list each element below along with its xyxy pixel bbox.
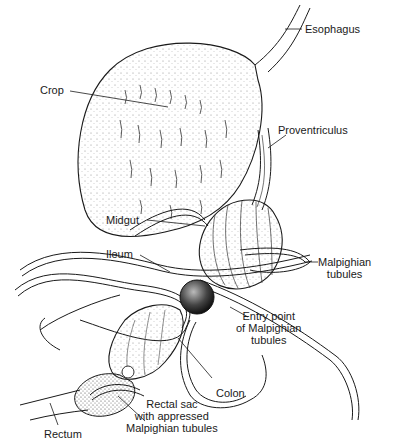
label-malpighian-tubules: Malpighian tubules (318, 256, 371, 280)
digestive-system-illustration (0, 0, 394, 447)
colon-shape (109, 305, 183, 379)
label-ileum: Ileum (106, 248, 133, 260)
label-rectum: Rectum (44, 428, 82, 440)
label-proventriculus: Proventriculus (278, 124, 348, 136)
label-entry-point: Entry point of Malpighian tubules (236, 310, 301, 346)
label-midgut: Midgut (106, 214, 139, 226)
label-crop: Crop (40, 84, 64, 96)
malpighian-tubules-shape (15, 209, 359, 420)
label-colon: Colon (216, 387, 245, 399)
esophagus-shape (255, 5, 310, 72)
entry-point-shape (180, 280, 214, 314)
label-esophagus: Esophagus (305, 23, 360, 35)
label-rectal-sac: Rectal sac with appressed Malpighian tub… (126, 398, 218, 434)
